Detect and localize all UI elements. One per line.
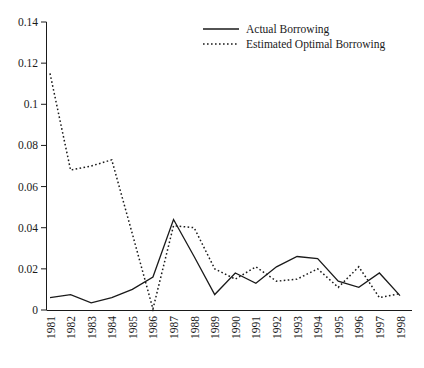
series-line-1 [50,219,400,302]
y-tick-label: 0.06 [18,181,38,193]
x-axis-ticks: 1981198219831984198519861987198819891990… [45,316,407,339]
y-tick-label: 0.12 [18,57,38,69]
y-axis-ticks: 00.020.040.060.080.10.120.14 [18,16,47,316]
y-tick-label: 0.08 [18,139,38,151]
x-tick-label: 1996 [353,316,365,339]
x-tick-label: 1986 [147,316,159,339]
chart-container: 00.020.040.060.080.10.120.14 19811982198… [0,0,424,368]
y-tick-label: 0.1 [24,98,39,110]
legend-label-2: Estimated Optimal Borrowing [246,38,386,51]
x-tick-label: 1984 [106,316,118,339]
x-tick-label: 1995 [333,316,345,339]
x-tick-label: 1985 [127,316,139,339]
y-tick-label: 0.14 [18,16,38,28]
x-tick-label: 1997 [374,316,386,339]
axes [47,22,413,311]
x-tick-label: 1988 [189,316,201,339]
chart-legend: Actual BorrowingEstimated Optimal Borrow… [203,23,386,51]
series-group [50,73,400,309]
x-tick-label: 1993 [292,316,304,339]
x-tick-label: 1990 [230,316,242,339]
x-tick-label: 1989 [209,316,221,339]
x-tick-label: 1982 [65,316,77,339]
x-tick-label: 1983 [86,316,98,339]
x-tick-label: 1981 [45,316,57,339]
legend-label-1: Actual Borrowing [246,23,330,36]
x-tick-label: 1998 [395,316,407,339]
x-tick-label: 1991 [250,316,262,339]
y-tick-label: 0.02 [18,263,38,275]
series-line-2 [50,73,400,309]
y-tick-label: 0 [32,304,38,316]
line-chart: 00.020.040.060.080.10.120.14 19811982198… [0,0,424,368]
x-tick-label: 1994 [312,316,324,339]
x-tick-label: 1992 [271,316,283,339]
y-tick-label: 0.04 [18,222,38,234]
x-tick-label: 1987 [168,316,180,339]
